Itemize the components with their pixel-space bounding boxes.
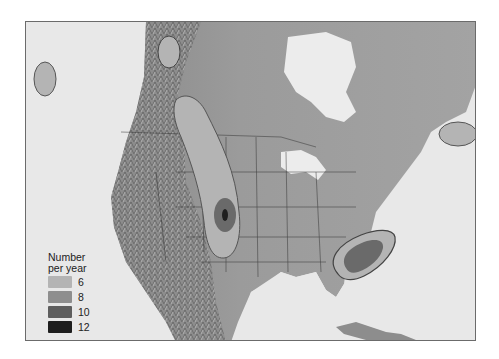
legend-label: 10 — [78, 306, 90, 318]
zone-pacific-offshore — [34, 62, 56, 96]
legend-swatch-6 — [48, 276, 72, 288]
legend-item-12: 12 — [48, 320, 118, 334]
legend-label: 12 — [78, 321, 90, 333]
legend-swatch-10 — [48, 306, 72, 318]
legend-item-10: 10 — [48, 305, 118, 319]
legend-swatch-12 — [48, 321, 72, 333]
zone-great-plains-12 — [222, 209, 228, 221]
legend-swatch-8 — [48, 291, 72, 303]
zone-atlantic-offshore — [439, 122, 476, 146]
legend-label: 8 — [78, 291, 84, 303]
legend: Number per year 6 8 10 12 — [48, 252, 118, 334]
legend-item-8: 8 — [48, 290, 118, 304]
legend-item-6: 6 — [48, 275, 118, 289]
zone-western-canada — [158, 36, 180, 68]
legend-title-line2: per year — [48, 263, 118, 274]
legend-label: 6 — [78, 276, 84, 288]
map-frame: Number per year 6 8 10 12 — [25, 21, 476, 341]
